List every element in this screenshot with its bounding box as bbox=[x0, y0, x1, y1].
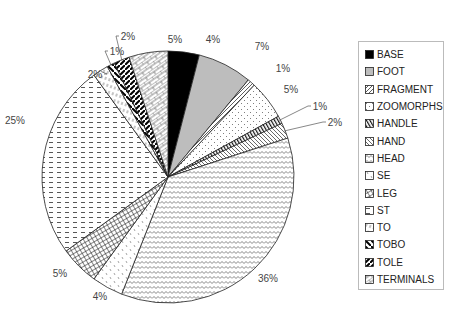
legend-item-to: TO bbox=[365, 219, 443, 236]
legend-label: ST bbox=[377, 205, 390, 216]
legend-label: HANDLE bbox=[377, 118, 418, 129]
legend-item-terminals: TERMINALS bbox=[365, 271, 443, 288]
legend: BASEFOOTFRAGMENTZOOMORPHSHANDLEHANDHEADS… bbox=[358, 41, 444, 290]
pct-label-tole: 2% bbox=[121, 31, 136, 42]
legend-item-handle: HANDLE bbox=[365, 115, 443, 132]
pct-label-to: 2% bbox=[88, 69, 103, 80]
pct-label-leg: 5% bbox=[53, 268, 68, 279]
legend-swatch-icon bbox=[365, 240, 374, 249]
legend-label: FOOT bbox=[377, 66, 405, 77]
legend-swatch-icon bbox=[365, 50, 374, 59]
legend-label: SE bbox=[377, 170, 390, 181]
legend-item-hand: HAND bbox=[365, 132, 443, 149]
legend-swatch-icon bbox=[365, 189, 374, 198]
legend-label: TOLE bbox=[377, 257, 403, 268]
legend-swatch-icon bbox=[365, 119, 374, 128]
legend-item-foot: FOOT bbox=[365, 63, 443, 80]
legend-swatch-icon bbox=[365, 85, 374, 94]
pct-label-handle: 1% bbox=[313, 101, 328, 112]
pct-label-se: 4% bbox=[93, 291, 108, 302]
legend-item-tobo: TOBO bbox=[365, 236, 443, 253]
legend-item-tole: TOLE bbox=[365, 254, 443, 271]
legend-label: FRAGMENT bbox=[377, 84, 433, 95]
legend-swatch-icon bbox=[365, 258, 374, 267]
pct-label-head: 36% bbox=[258, 273, 278, 284]
legend-swatch-icon bbox=[365, 154, 374, 163]
pct-label-terminals: 5% bbox=[168, 34, 183, 45]
pct-label-st: 25% bbox=[5, 115, 25, 126]
legend-swatch-icon bbox=[365, 275, 374, 284]
legend-item-zoomorphs: ZOOMORPHS bbox=[365, 98, 443, 115]
pct-label-zoomorphs: 5% bbox=[284, 84, 299, 95]
legend-item-fragment: FRAGMENT bbox=[365, 81, 443, 98]
legend-swatch-icon bbox=[365, 137, 374, 146]
pct-label-hand: 2% bbox=[328, 117, 343, 128]
legend-label: TERMINALS bbox=[377, 274, 434, 285]
legend-swatch-icon bbox=[365, 223, 374, 232]
legend-swatch-icon bbox=[365, 171, 374, 180]
legend-label: TO bbox=[377, 222, 391, 233]
legend-swatch-icon bbox=[365, 206, 374, 215]
pct-label-fragment: 1% bbox=[276, 63, 291, 74]
legend-label: HAND bbox=[377, 136, 405, 147]
legend-item-se: SE bbox=[365, 167, 443, 184]
pct-label-foot: 7% bbox=[255, 41, 270, 52]
legend-label: LEG bbox=[377, 188, 397, 199]
legend-label: HEAD bbox=[377, 153, 405, 164]
pct-label-tobo: 1% bbox=[110, 46, 125, 57]
leader-line bbox=[279, 106, 311, 120]
leader-line bbox=[284, 122, 326, 131]
legend-swatch-icon bbox=[365, 67, 374, 76]
legend-label: BASE bbox=[377, 49, 404, 60]
legend-label: ZOOMORPHS bbox=[377, 101, 443, 112]
pct-label-base: 4% bbox=[206, 34, 221, 45]
legend-item-leg: LEG bbox=[365, 184, 443, 201]
legend-label: TOBO bbox=[377, 239, 405, 250]
legend-item-head: HEAD bbox=[365, 150, 443, 167]
legend-item-base: BASE bbox=[365, 46, 443, 63]
legend-item-st: ST bbox=[365, 202, 443, 219]
legend-swatch-icon bbox=[365, 102, 374, 111]
pie-slices bbox=[42, 51, 294, 303]
